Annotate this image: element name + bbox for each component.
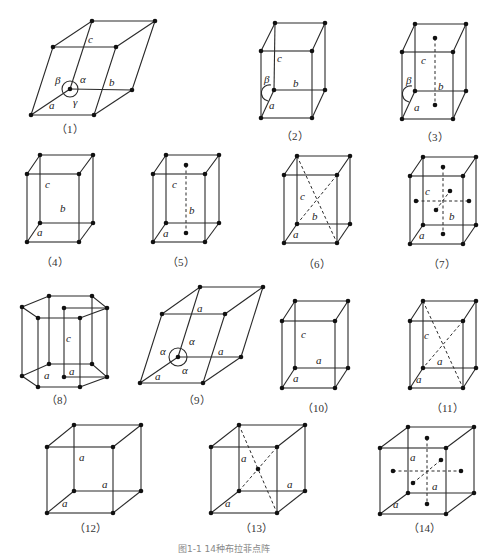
lattice-14-caption: （14） (408, 522, 441, 534)
lattice-9-rhombohedral: a a a α α α （9） (138, 285, 266, 406)
edge-label-a1: a (437, 355, 443, 367)
edge-label-a1: a (197, 302, 203, 314)
edge-label-a2: a (416, 373, 422, 385)
lattice-3-base-centered-monoclinic: c b a β （3） (400, 22, 469, 143)
edge-label-c: c (172, 178, 177, 190)
edge-label-b: b (312, 210, 318, 222)
lattice-3-caption: （3） (421, 131, 449, 143)
lattice-8-hexagonal: c a a （8） (20, 294, 110, 406)
lattice-5-caption: （5） (167, 256, 195, 268)
angle-label-alpha: α (80, 73, 86, 85)
lattice-10-simple-tetragonal: c a a （10） (280, 299, 351, 414)
edge-label-c: c (421, 54, 426, 66)
lattice-4-simple-orthorhombic: c b a （4） (25, 153, 96, 268)
edge-label-c: c (300, 190, 305, 202)
edge-label-c: c (45, 178, 50, 190)
edge-label-b: b (189, 204, 195, 216)
lattice-4-caption: （4） (41, 256, 69, 268)
lattice-7-caption: （7） (428, 258, 456, 270)
edge-label-a1: a (410, 451, 416, 463)
figure-caption: 图1-1 14种布拉菲点阵 (178, 543, 270, 554)
edge-label-a3: a (62, 497, 68, 509)
angle-label-alpha-2: α (160, 345, 166, 357)
lattice-1-caption: （1） (56, 123, 84, 135)
lattice-13-body-centered-cubic: a a a （13） (209, 423, 308, 534)
lattice-2-caption: （2） (281, 130, 309, 142)
edge-label-c: c (66, 332, 71, 344)
edge-label-a2: a (218, 345, 224, 357)
edge-label-b: b (293, 77, 299, 89)
angle-label-alpha-1: α (189, 335, 195, 347)
edge-label-a: a (414, 101, 420, 113)
angle-label-beta: β (263, 73, 270, 85)
edge-label-a2: a (432, 480, 438, 492)
edge-label-a2: a (69, 365, 75, 377)
bravais-lattices-figure: c b a β α γ （1） c b a β （2） (0, 0, 495, 555)
lattice-points (29, 19, 158, 118)
lattice-2-simple-monoclinic: c b a β （2） (259, 21, 328, 142)
lattice-6-caption: （6） (303, 258, 331, 270)
edge-label-a: a (293, 228, 299, 240)
angle-label-alpha-3: α (182, 364, 188, 376)
edge-label-a1: a (241, 452, 247, 464)
lattice-7-face-centered-orthorhombic: c b a （7） (408, 155, 479, 270)
angle-label-gamma: γ (73, 96, 78, 108)
edge-label-b: b (449, 210, 455, 222)
lattice-points (400, 22, 469, 122)
lattice-12-simple-cubic: a a a （12） (45, 423, 144, 534)
lattice-6-body-centered-orthorhombic: c b a （6） (282, 154, 353, 270)
lattice-12-caption: （12） (74, 522, 107, 534)
edge-label-a3: a (393, 498, 399, 510)
lattice-11-body-centered-tetragonal: c a a （11） (408, 299, 479, 414)
edge-label-a2: a (287, 478, 293, 490)
edge-label-a2: a (293, 372, 299, 384)
edge-label-b: b (109, 76, 115, 88)
lattice-11-caption: （11） (431, 402, 464, 414)
edge-label-a: a (37, 226, 43, 238)
edge-label-c: c (301, 328, 306, 340)
edge-label-b: b (60, 202, 66, 214)
edge-label-a: a (163, 227, 169, 239)
angle-label-beta: β (405, 74, 412, 86)
lattice-8-caption: （8） (46, 394, 74, 406)
edge-label-c: c (425, 185, 430, 197)
edge-label-a2: a (102, 478, 108, 490)
edge-label-a: a (49, 99, 55, 111)
edge-label-a: a (269, 99, 275, 111)
edge-label-a1: a (79, 451, 85, 463)
lattice-14-face-centered-cubic: a a a （14） (378, 425, 477, 534)
lattice-10-caption: （10） (302, 402, 335, 414)
lattice-points (280, 299, 351, 391)
angle-label-beta: β (54, 74, 61, 86)
lattice-1-triclinic: c b a β α γ （1） (29, 19, 158, 135)
edge-label-c: c (88, 33, 93, 45)
lattice-5-base-centered-orthorhombic: c b a （5） (151, 153, 222, 268)
edge-label-a1: a (316, 354, 322, 366)
edge-label-a1: a (44, 369, 50, 381)
edge-label-a3: a (225, 497, 231, 509)
edge-label-c: c (424, 329, 429, 341)
edge-label-c: c (277, 52, 282, 64)
edge-label-a3: a (155, 370, 161, 382)
edge-label-b: b (438, 80, 444, 92)
lattice-13-caption: （13） (240, 522, 273, 534)
lattice-9-caption: （9） (183, 394, 211, 406)
edge-label-a: a (419, 229, 425, 241)
